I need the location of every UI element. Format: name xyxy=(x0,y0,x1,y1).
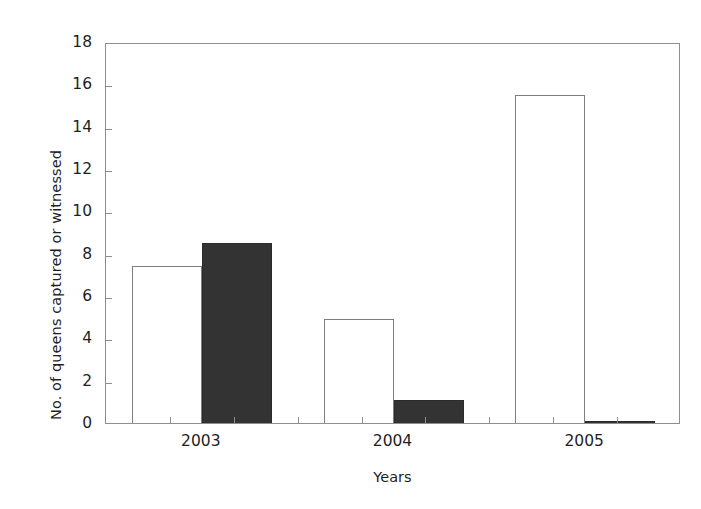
x-axis-title: Years xyxy=(105,469,680,485)
x-tick-mark xyxy=(553,417,554,423)
y-tick-mark xyxy=(106,171,112,172)
bar-2003-series2 xyxy=(202,243,272,423)
y-tick-label: 10 xyxy=(32,205,92,221)
y-tick-label: 8 xyxy=(32,247,92,263)
bars-layer xyxy=(106,44,679,423)
x-tick-mark xyxy=(362,417,363,423)
y-tick-mark xyxy=(106,86,112,87)
y-tick-label: 4 xyxy=(32,332,92,348)
y-tick-mark xyxy=(106,383,112,384)
y-tick-mark xyxy=(106,213,112,214)
y-tick-mark xyxy=(106,256,112,257)
x-tick-mark xyxy=(425,417,426,423)
bar-2003-series1 xyxy=(132,266,202,423)
x-tick-mark xyxy=(617,417,618,423)
bar-2005-series1 xyxy=(515,95,585,423)
x-tick-mark xyxy=(489,417,490,423)
x-tick-label: 2004 xyxy=(333,432,453,450)
bar-2004-series1 xyxy=(324,319,394,423)
y-tick-label: 16 xyxy=(32,78,92,94)
x-tick-mark xyxy=(298,417,299,423)
x-tick-mark xyxy=(234,417,235,423)
y-tick-label: 12 xyxy=(32,162,92,178)
plot-area xyxy=(105,43,680,424)
x-tick-label: 2005 xyxy=(524,432,644,450)
y-tick-mark xyxy=(106,298,112,299)
y-tick-label: 6 xyxy=(32,289,92,305)
y-axis-tick-labels: 024681012141618 xyxy=(0,0,105,509)
bar-chart-figure: No. of queens captured or witnessed 0246… xyxy=(0,0,701,509)
bar-2004-series2 xyxy=(394,400,464,423)
y-tick-label: 2 xyxy=(32,374,92,390)
y-tick-label: 14 xyxy=(32,120,92,136)
bar-2005-series2 xyxy=(585,421,655,423)
y-tick-mark xyxy=(106,340,112,341)
y-tick-label: 0 xyxy=(32,416,92,432)
y-tick-label: 18 xyxy=(32,35,92,51)
x-tick-label: 2003 xyxy=(141,432,261,450)
y-tick-mark xyxy=(106,129,112,130)
x-tick-mark xyxy=(170,417,171,423)
x-axis-tick-labels: 200320042005 xyxy=(105,432,680,462)
